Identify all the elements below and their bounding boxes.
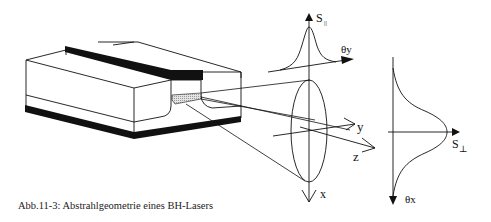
s-perp-subscript: ⊥ — [459, 144, 467, 154]
z-axis-label: z — [353, 149, 359, 164]
gaussian-s-parallel — [280, 27, 336, 70]
theta-x-label: θx — [405, 193, 416, 205]
s-parallel-subscript: || — [324, 19, 327, 27]
x-axis-label: x — [320, 187, 326, 201]
theta-y-label: θy — [341, 43, 352, 55]
y-axis-label: y — [357, 119, 364, 134]
bh-laser-diagram: S || θy y z x S ⊥ θx — [0, 0, 491, 222]
s-parallel-arrowhead — [305, 13, 313, 21]
far-field-perp-plot — [388, 57, 452, 196]
beam-lines — [186, 80, 350, 181]
figure-caption: Abb.11-3: Abstrahlgeometrie eines BH-Las… — [18, 200, 213, 211]
theta-x-arrowhead — [389, 196, 397, 205]
s-parallel-label: S — [316, 11, 323, 25]
s-perp-label: S — [452, 137, 459, 151]
active-region — [172, 93, 201, 104]
s-perp-arrowhead — [452, 128, 460, 136]
axes-group — [268, 18, 375, 202]
top-contact-stripe — [65, 46, 203, 80]
theta-y-arrowhead — [341, 56, 354, 64]
